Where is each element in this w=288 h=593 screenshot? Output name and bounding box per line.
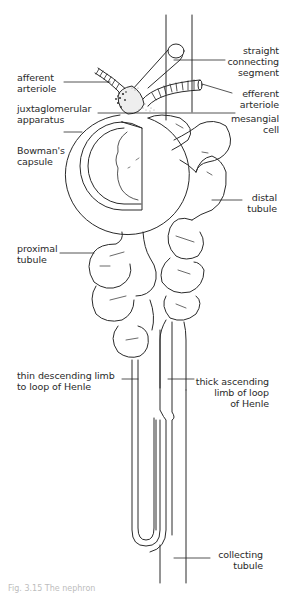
label-proximal-tubule: proximal tubule: [17, 243, 57, 265]
proximal-tubule: [89, 232, 156, 357]
bowmans-capsule: [65, 115, 189, 235]
label-mesangial-cell: mesangial cell: [225, 113, 279, 135]
juxtaglomerular-apparatus: [115, 86, 154, 114]
efferent-arteriole: [142, 80, 202, 106]
figure-caption: Fig. 3.15 The nephron: [8, 584, 95, 593]
label-juxtaglomerular-apparatus: juxtaglomerular apparatus: [17, 103, 91, 125]
label-thick-ascending-limb: thick ascending limb of loop of Henle: [185, 376, 269, 409]
label-afferent-arteriole: afferent arteriole: [17, 72, 56, 94]
label-thin-descending-limb: thin descending limb to loop of Henle: [17, 370, 115, 392]
nephron-figure: straight connecting segment afferent art…: [0, 0, 288, 593]
label-collecting-tubule: collecting tubule: [205, 549, 263, 571]
label-distal-tubule: distal tubule: [235, 192, 277, 214]
label-efferent-arteriole: efferent arteriole: [225, 88, 279, 110]
label-bowmans-capsule: Bowman's capsule: [17, 145, 65, 167]
distal-lower-coils: [160, 218, 204, 390]
label-straight-connecting-segment: straight connecting segment: [219, 45, 279, 78]
leader-lines: [60, 60, 242, 558]
